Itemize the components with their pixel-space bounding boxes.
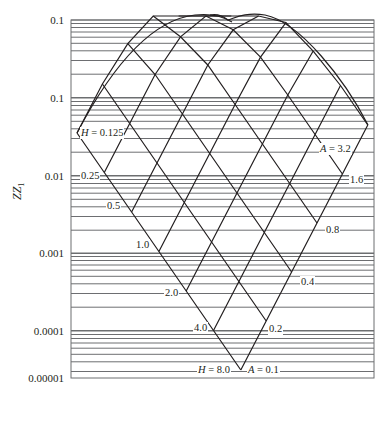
label-h-2-0: 2.0 [164,287,179,299]
y-axis-label: ZZ1 [10,183,26,200]
y-tick-0-001: 0.001 [0,247,64,259]
y-tick-0-0001: 0.0001 [0,325,64,337]
nomograph-mesh [77,14,368,370]
label-h-1-0: 1.0 [135,239,150,251]
y-tick-1: 0.1 [0,14,64,26]
chart-canvas [0,0,386,423]
label-a-0-4: 0.4 [300,276,315,288]
label-h-0-5: 0.5 [106,200,121,212]
label-a-0-8: 0.8 [325,224,340,236]
log-gridlines [71,20,374,372]
label-a-3-2: A = 3.2 [319,143,352,155]
label-h-4-0: 4.0 [193,322,208,334]
y-tick-0-1: 0.1 [0,92,64,104]
label-h-0-25: 0.25 [80,170,100,182]
y-tick-0-01: 0.01 [0,170,64,182]
label-a-1-6: 1.6 [349,174,364,186]
label-h-0-125: H = 0.125 [80,127,124,139]
label-h-8-0: H = 8.0 [197,364,231,376]
y-tick-0-00001: 0.00001 [0,372,64,384]
label-a-0-1: A = 0.1 [247,364,280,376]
label-a-0-2: 0.2 [268,323,283,335]
